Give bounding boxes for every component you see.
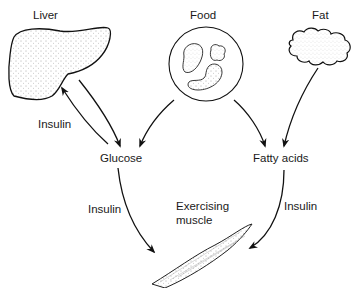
arrow-food-to-glucose <box>140 100 174 146</box>
muscle-illustration <box>152 224 252 288</box>
liver-illustration <box>9 27 111 99</box>
arrow-glucose-to-muscle <box>118 168 154 252</box>
diagram-canvas <box>0 0 361 288</box>
arrow-fat-to-fatty-acids <box>284 68 318 146</box>
liver-label: Liver <box>33 9 58 22</box>
muscle-label-line2: muscle <box>176 214 212 227</box>
arrow-food-to-fatty-acids <box>234 100 265 146</box>
arrow-fatty-acids-to-muscle <box>250 170 284 248</box>
arrow-glucose-to-liver <box>62 88 108 144</box>
glucose-label: Glucose <box>100 152 142 165</box>
fatty-acids-label: Fatty acids <box>253 152 309 165</box>
insulin-label-glucose-muscle: Insulin <box>88 203 121 216</box>
muscle-label-line1: Exercising <box>176 200 229 213</box>
food-label: Food <box>190 9 216 22</box>
fat-label: Fat <box>312 9 329 22</box>
insulin-label-liver: Insulin <box>38 118 71 131</box>
fat-illustration <box>289 28 350 65</box>
insulin-label-fatty-acids-muscle: Insulin <box>284 200 317 213</box>
food-illustration <box>169 27 243 101</box>
